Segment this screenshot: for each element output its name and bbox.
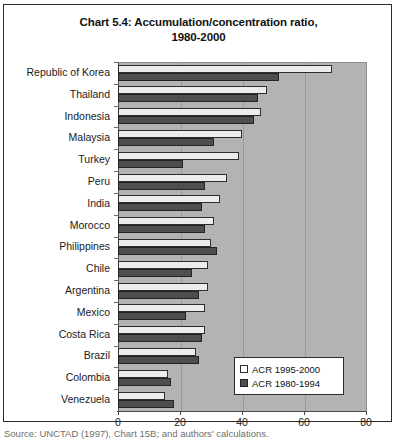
y-tick-8	[114, 237, 118, 238]
x-tick-40	[242, 411, 243, 415]
y-axis-label-argentina: Argentina	[4, 284, 110, 296]
bar-argentina-series-1	[118, 283, 208, 291]
y-tick-4	[114, 149, 118, 150]
y-axis-label-republic-of-korea: Republic of Korea	[4, 66, 110, 78]
legend-label-acr-1980-1994: ACR 1980-1994	[252, 378, 320, 389]
chart-title: Chart 5.4: Accumulation/concentration ra…	[4, 15, 393, 45]
bar-peru-series-1	[118, 174, 227, 182]
y-axis-label-colombia: Colombia	[4, 371, 110, 383]
bar-india-series-1	[118, 195, 220, 203]
y-tick-5	[114, 171, 118, 172]
bar-malaysia-series-2	[118, 138, 214, 146]
bar-malaysia-series-1	[118, 130, 242, 138]
y-axis-label-venezuela: Venezuela	[4, 393, 110, 405]
chart-title-line-1: Chart 5.4: Accumulation/concentration ra…	[80, 16, 318, 28]
x-tick-label-20: 20	[160, 416, 200, 428]
y-axis-label-mexico: Mexico	[4, 306, 110, 318]
bar-morocco-series-2	[118, 225, 205, 233]
x-tick-label-80: 80	[346, 416, 386, 428]
y-tick-14	[114, 367, 118, 368]
y-tick-1	[114, 84, 118, 85]
bar-indonesia-series-1	[118, 108, 261, 116]
bar-republic-of-korea-series-1	[118, 65, 332, 73]
y-axis-label-morocco: Morocco	[4, 219, 110, 231]
y-tick-2	[114, 106, 118, 107]
x-tick-0	[118, 411, 119, 415]
x-tick-80	[366, 411, 367, 415]
y-axis-label-peru: Peru	[4, 175, 110, 187]
y-tick-15	[114, 389, 118, 390]
y-tick-0	[114, 62, 118, 63]
chart-legend: ACR 1995-2000 ACR 1980-1994	[234, 357, 344, 395]
y-axis-label-malaysia: Malaysia	[4, 131, 110, 143]
bar-brazil-series-1	[118, 348, 196, 356]
y-axis-label-chile: Chile	[4, 262, 110, 274]
y-axis-label-turkey: Turkey	[4, 153, 110, 165]
y-axis-category-labels: Republic of KoreaThailandIndonesiaMalays…	[4, 62, 114, 411]
bar-india-series-2	[118, 203, 202, 211]
source-note: Source: UNCTAD (1997), Chart 15B; and au…	[4, 428, 384, 439]
bar-turkey-series-2	[118, 160, 183, 168]
y-axis-label-costa-rica: Costa Rica	[4, 328, 110, 340]
legend-label-acr-1995-2000: ACR 1995-2000	[252, 364, 320, 375]
bar-philippines-series-1	[118, 239, 211, 247]
bar-colombia-series-2	[118, 378, 171, 386]
legend-item-acr-1995-2000: ACR 1995-2000	[240, 362, 338, 376]
y-axis-label-brazil: Brazil	[4, 349, 110, 361]
bar-costa-rica-series-2	[118, 334, 202, 342]
y-tick-13	[114, 346, 118, 347]
bar-costa-rica-series-1	[118, 326, 205, 334]
bar-turkey-series-1	[118, 152, 239, 160]
y-tick-10	[114, 280, 118, 281]
bar-republic-of-korea-series-2	[118, 73, 279, 81]
y-tick-12	[114, 324, 118, 325]
x-tick-label-40: 40	[222, 416, 262, 428]
x-tick-60	[304, 411, 305, 415]
bar-philippines-series-2	[118, 247, 217, 255]
bar-peru-series-2	[118, 182, 205, 190]
bar-indonesia-series-2	[118, 116, 254, 124]
y-tick-9	[114, 258, 118, 259]
y-axis-label-thailand: Thailand	[4, 88, 110, 100]
source-note-text: Source: UNCTAD (1997), Chart 15B; and au…	[4, 428, 269, 439]
bar-chile-series-2	[118, 269, 192, 277]
plot-right-edge	[366, 62, 367, 411]
chart-figure: Chart 5.4: Accumulation/concentration ra…	[0, 0, 399, 441]
bar-colombia-series-1	[118, 370, 168, 378]
y-tick-11	[114, 302, 118, 303]
bar-morocco-series-1	[118, 217, 214, 225]
y-tick-6	[114, 193, 118, 194]
y-tick-7	[114, 215, 118, 216]
bar-brazil-series-2	[118, 356, 199, 364]
y-axis-label-philippines: Philippines	[4, 240, 110, 252]
legend-item-acr-1980-1994: ACR 1980-1994	[240, 376, 338, 390]
figure-frame: Chart 5.4: Accumulation/concentration ra…	[3, 4, 392, 422]
x-tick-20	[180, 411, 181, 415]
bar-mexico-series-2	[118, 312, 186, 320]
bar-mexico-series-1	[118, 304, 205, 312]
y-tick-3	[114, 127, 118, 128]
bar-venezuela-series-1	[118, 392, 165, 400]
y-axis-label-india: India	[4, 197, 110, 209]
bar-thailand-series-2	[118, 94, 258, 102]
x-tick-label-0: 0	[98, 416, 138, 428]
legend-swatch-dark	[240, 379, 248, 387]
y-axis-label-indonesia: Indonesia	[4, 110, 110, 122]
x-tick-label-60: 60	[284, 416, 324, 428]
chart-title-line-2: 1980-2000	[4, 30, 393, 45]
legend-swatch-light	[240, 365, 248, 373]
bar-argentina-series-2	[118, 291, 199, 299]
bar-venezuela-series-2	[118, 400, 174, 408]
bar-thailand-series-1	[118, 86, 267, 94]
bar-chile-series-1	[118, 261, 208, 269]
